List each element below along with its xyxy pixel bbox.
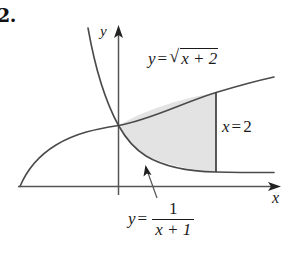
fraction-numerator: 1 xyxy=(164,200,183,219)
fraction-expression: 1 x + 1 xyxy=(152,200,194,239)
vertical-line-equation-label: x=2 xyxy=(222,118,252,135)
vertical-line-rhs: 2 xyxy=(243,117,252,136)
figure-container: 2. y x y=√x + 2 x=2 y= 1 x + 1 xyxy=(0,0,302,268)
fraction-denominator: x + 1 xyxy=(152,219,194,239)
lower-curve-equals: = xyxy=(136,210,150,228)
lower-curve-lhs: y xyxy=(128,210,136,228)
upper-curve-equation-label: y=√x + 2 xyxy=(148,48,218,67)
annotation-leader-line xyxy=(148,173,157,198)
upper-curve-equals: = xyxy=(156,49,170,68)
radical-expression: √x + 2 xyxy=(169,48,218,67)
radicand: x + 2 xyxy=(180,48,218,67)
upper-curve-lhs: y xyxy=(148,49,156,68)
x-axis-label: x xyxy=(272,190,279,206)
annotation-arrowhead xyxy=(144,165,152,177)
radical-sign-icon: √ xyxy=(169,47,179,65)
y-axis-label: y xyxy=(100,24,107,39)
lower-curve-equation-label: y= 1 x + 1 xyxy=(128,200,194,239)
vertical-line-lhs: x xyxy=(222,117,230,136)
vertical-line-equals: = xyxy=(230,117,244,136)
problem-number: 2. xyxy=(0,6,16,25)
shaded-region xyxy=(119,93,217,173)
